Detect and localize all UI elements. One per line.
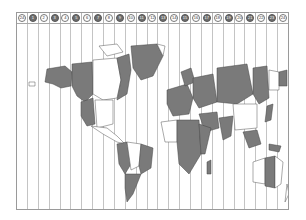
africa-east — [199, 124, 211, 154]
zone-number-badge: 5 — [72, 14, 80, 22]
zone-header-cell: 16 — [191, 13, 202, 23]
zone-number-badge: 3 — [51, 14, 59, 22]
india — [219, 116, 233, 140]
zone-header-cell: 7 — [93, 13, 104, 23]
zone-header-cell: 24 — [17, 13, 28, 23]
russia-west — [193, 74, 217, 108]
usa-west — [81, 98, 95, 126]
mexico-central-america — [91, 126, 125, 144]
zone-number-badge: 2 — [40, 14, 48, 22]
canada-west — [72, 62, 93, 102]
zone-header-cell: 2 — [39, 13, 50, 23]
zone-header-cell: 10 — [126, 13, 137, 23]
zone-header-cell: 8 — [104, 13, 115, 23]
zone-number-badge: 11 — [138, 14, 146, 22]
zone-number-badge: 10 — [127, 14, 135, 22]
zone-header-cell: 9 — [115, 13, 126, 23]
time-zone-map-frame: 2412345678910111213141516171819202122232… — [16, 12, 289, 210]
zone-number-badge: 8 — [105, 14, 113, 22]
zone-header-cell: 21 — [245, 13, 256, 23]
new-zealand — [285, 184, 288, 202]
zone-header-cell: 4 — [61, 13, 72, 23]
greenland — [131, 44, 163, 80]
zone-header-cell: 23 — [267, 13, 278, 23]
zone-number-badge: 12 — [148, 14, 156, 22]
zone-header-cell: 19 — [224, 13, 235, 23]
zone-header-cell: 13 — [158, 13, 169, 23]
zone-number-badge: 13 — [159, 14, 167, 22]
australia-central — [265, 156, 275, 188]
hawaii — [29, 82, 35, 86]
world-map — [17, 24, 288, 209]
zone-number-badge: 9 — [116, 14, 124, 22]
southeast-asia — [243, 130, 261, 148]
russia-far-east — [269, 70, 279, 90]
zone-number-badge: 16 — [192, 14, 200, 22]
new-guinea — [269, 144, 281, 152]
zone-header-cell: 3 — [50, 13, 61, 23]
zone-number-badge: 24 — [279, 14, 287, 22]
zone-header-cell: 14 — [169, 13, 180, 23]
australia-west — [253, 158, 265, 184]
africa-central — [177, 120, 201, 174]
zone-number-badge: 14 — [170, 14, 178, 22]
japan — [265, 104, 273, 122]
zone-header-cell: 12 — [148, 13, 159, 23]
zone-number-badge: 21 — [246, 14, 254, 22]
zone-number-badge: 24 — [18, 14, 26, 22]
zone-header-cell: 1 — [28, 13, 39, 23]
alaska — [45, 66, 72, 88]
zone-header-cell: 22 — [256, 13, 267, 23]
zone-header-cell: 20 — [235, 13, 246, 23]
europe — [167, 84, 193, 116]
chukotka — [279, 70, 287, 86]
zone-number-badge: 7 — [94, 14, 102, 22]
brazil — [139, 144, 153, 174]
russia-central — [217, 64, 253, 104]
zone-header-cell: 11 — [137, 13, 148, 23]
australia-east — [275, 156, 283, 188]
zone-number-badge: 20 — [235, 14, 243, 22]
russia-east — [253, 66, 269, 104]
zone-number-badge: 15 — [181, 14, 189, 22]
zone-header-cell: 6 — [82, 13, 93, 23]
canada-central — [93, 58, 121, 100]
zone-number-badge: 6 — [83, 14, 91, 22]
china — [233, 104, 257, 130]
zone-number-badge: 18 — [214, 14, 222, 22]
zone-header-cell: 17 — [202, 13, 213, 23]
zone-number-badge: 17 — [203, 14, 211, 22]
madagascar — [207, 160, 211, 174]
zone-header-cell: 5 — [71, 13, 82, 23]
argentina — [125, 174, 141, 202]
zone-number-badge: 4 — [61, 14, 69, 22]
arctic-islands — [99, 44, 123, 56]
africa-west — [161, 120, 177, 142]
usa-central — [95, 100, 113, 128]
zone-header-cell: 24 — [278, 13, 288, 23]
zone-header-cell: 15 — [180, 13, 191, 23]
zone-number-badge: 23 — [268, 14, 276, 22]
zone-number-badge: 22 — [257, 14, 265, 22]
zone-number-badge: 19 — [225, 14, 233, 22]
time-zone-header-row: 2412345678910111213141516171819202122232… — [17, 13, 288, 24]
zone-header-cell: 18 — [213, 13, 224, 23]
zone-number-badge: 1 — [29, 14, 37, 22]
